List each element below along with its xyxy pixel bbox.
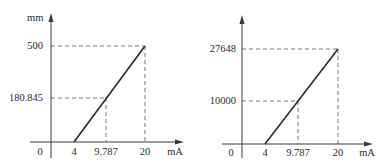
right-x-tick-4: 4 (262, 148, 267, 159)
right-data-line (265, 49, 338, 144)
left-y-tick-top: 500 (27, 41, 43, 52)
right-y-tick-mid: 10000 (210, 96, 236, 107)
right-chart-plot (192, 0, 384, 168)
right-x-unit-label: mA (359, 148, 375, 159)
right-y-tick-top: 27648 (210, 44, 236, 55)
left-x-tick-20: 20 (140, 147, 151, 158)
right-chart: 27648 10000 0 4 9.787 20 mA (192, 0, 384, 168)
left-x-axis-arrow-icon (175, 140, 184, 145)
left-chart: mm 500 180.845 0 4 9.787 20 mA (0, 0, 192, 168)
right-y-axis-arrow-icon (240, 15, 245, 24)
left-y-tick-mid: 180.845 (9, 93, 43, 104)
left-y-axis-arrow-icon (49, 13, 54, 22)
right-x-axis-arrow-icon (364, 142, 373, 147)
left-chart-plot (0, 0, 192, 168)
left-x-tick-4: 4 (71, 147, 76, 158)
left-x-unit-label: mA (167, 147, 183, 158)
left-data-line (74, 46, 145, 142)
left-y-unit-label: mm (27, 13, 43, 24)
right-x-tick-mid: 9.787 (286, 148, 310, 159)
left-x-tick-mid: 9.787 (94, 147, 118, 158)
right-origin-label: 0 (228, 148, 233, 159)
left-origin-label: 0 (37, 147, 42, 158)
right-x-tick-20: 20 (333, 148, 344, 159)
